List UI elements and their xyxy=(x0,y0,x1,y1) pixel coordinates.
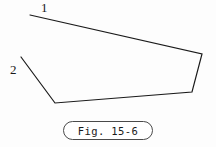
vertex-label-1: 1 xyxy=(41,1,48,14)
vertex-label-2: 2 xyxy=(10,63,17,76)
open-polygon-outline xyxy=(21,15,202,103)
figure-caption-text: Fig. 15-6 xyxy=(78,125,139,137)
figure-caption-pill: Fig. 15-6 xyxy=(63,121,153,140)
figure-container: 1 2 Fig. 15-6 xyxy=(0,0,216,147)
